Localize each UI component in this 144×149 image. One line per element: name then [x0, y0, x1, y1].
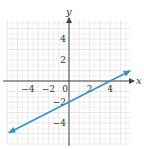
y-tick-label: −2	[53, 97, 66, 107]
x-tick-label: −2	[42, 84, 55, 94]
x-tick-label: 0	[62, 84, 68, 94]
x-axis-label: x	[136, 75, 142, 86]
y-tick-label: −4	[53, 118, 67, 128]
coordinate-plane: −4−202442−2−4 x y	[0, 0, 144, 149]
y-tick-label: 4	[60, 34, 66, 44]
y-axis-label: y	[65, 6, 72, 17]
x-tick-label: −4	[21, 84, 35, 94]
x-tick-label: 4	[107, 84, 113, 94]
y-tick-label: 2	[60, 55, 66, 65]
